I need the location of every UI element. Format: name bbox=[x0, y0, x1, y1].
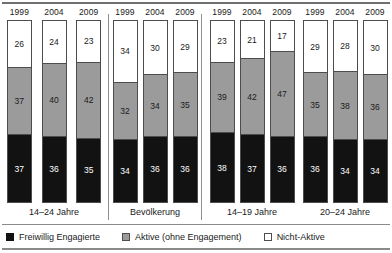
year-label: 2009 bbox=[71, 6, 106, 18]
stacked-bar: 17 47 36 bbox=[270, 20, 295, 203]
segment-freiwillig-engagierte: 36 bbox=[43, 137, 66, 202]
stacked-bar: 30 34 36 bbox=[143, 20, 168, 203]
segment-aktive: 38 bbox=[334, 72, 357, 141]
chart-group-14-19-jahre: 1999 2004 2009 23 39 38 21 42 37 bbox=[207, 0, 297, 222]
year-label: 1999 bbox=[207, 6, 237, 18]
chart-group-bevoelkerung: 1999 2004 2009 34 32 34 30 34 36 bbox=[110, 0, 200, 222]
group-separator-1 bbox=[108, 14, 109, 220]
year-label: 1999 bbox=[300, 6, 330, 18]
legend-item-freiwillig-engagierte: Freiwillig Engagierte bbox=[6, 231, 100, 243]
segment-aktive: 39 bbox=[211, 63, 234, 134]
legend-swatch-icon bbox=[264, 233, 272, 241]
segment-freiwillig-engagierte: 36 bbox=[304, 137, 327, 202]
segment-freiwillig-engagierte: 36 bbox=[174, 137, 197, 202]
stacked-bar: 23 39 38 bbox=[210, 20, 235, 203]
segment-freiwillig-engagierte: 34 bbox=[364, 140, 387, 202]
segment-nicht-aktive: 29 bbox=[174, 21, 197, 73]
segment-aktive: 32 bbox=[114, 83, 137, 141]
bar-slot: 23 42 35 bbox=[71, 20, 106, 203]
segment-nicht-aktive: 34 bbox=[114, 21, 137, 83]
year-label: 1999 bbox=[110, 6, 140, 18]
segment-nicht-aktive: 23 bbox=[77, 21, 100, 63]
legend-label: Nicht-Aktive bbox=[277, 231, 325, 243]
segment-nicht-aktive: 28 bbox=[334, 21, 357, 72]
group-separator-2 bbox=[201, 14, 202, 220]
segment-freiwillig-engagierte: 35 bbox=[77, 139, 100, 202]
bars-row: 26 37 37 24 40 36 23 42 35 bbox=[2, 20, 106, 203]
legend-label: Freiwillig Engagierte bbox=[19, 231, 100, 243]
segment-freiwillig-engagierte: 37 bbox=[8, 135, 31, 202]
segment-aktive: 34 bbox=[144, 75, 167, 137]
stacked-bar: 24 40 36 bbox=[42, 20, 67, 203]
bars-row: 29 35 36 28 38 34 30 36 34 bbox=[300, 20, 390, 203]
segment-aktive: 37 bbox=[8, 68, 31, 135]
bar-slot: 29 35 36 bbox=[170, 20, 200, 203]
year-axis-labels: 1999 2004 2009 bbox=[2, 6, 106, 18]
year-label: 2009 bbox=[170, 6, 200, 18]
bar-slot: 23 39 38 bbox=[207, 20, 237, 203]
segment-nicht-aktive: 21 bbox=[241, 21, 264, 59]
year-axis-labels: 1999 2004 2009 bbox=[300, 6, 390, 18]
legend-label: Aktive (ohne Engagement) bbox=[135, 231, 242, 243]
segment-aktive: 42 bbox=[77, 63, 100, 139]
bars-row: 34 32 34 30 34 36 29 35 36 bbox=[110, 20, 200, 203]
segment-freiwillig-engagierte: 37 bbox=[241, 135, 264, 202]
year-label: 2004 bbox=[330, 6, 360, 18]
year-axis-labels: 1999 2004 2009 bbox=[110, 6, 200, 18]
chart-legend: Freiwillig Engagierte Aktive (ohne Engag… bbox=[6, 230, 347, 244]
legend-top-rule bbox=[2, 224, 390, 225]
segment-aktive: 35 bbox=[304, 73, 327, 136]
segment-freiwillig-engagierte: 36 bbox=[144, 137, 167, 202]
bar-slot: 29 35 36 bbox=[300, 20, 330, 203]
bars-row: 23 39 38 21 42 37 17 47 36 bbox=[207, 20, 297, 203]
stacked-bar-chart: 1999 2004 2009 26 37 37 24 40 36 bbox=[0, 0, 392, 253]
year-axis-labels: 1999 2004 2009 bbox=[207, 6, 297, 18]
stacked-bar: 29 35 36 bbox=[173, 20, 198, 203]
segment-freiwillig-engagierte: 34 bbox=[114, 140, 137, 202]
year-label: 2009 bbox=[267, 6, 297, 18]
bar-slot: 34 32 34 bbox=[110, 20, 140, 203]
bottom-rule bbox=[2, 248, 390, 250]
segment-nicht-aktive: 30 bbox=[364, 21, 387, 75]
stacked-bar: 21 42 37 bbox=[240, 20, 265, 203]
segment-nicht-aktive: 29 bbox=[304, 21, 327, 73]
segment-aktive: 42 bbox=[241, 59, 264, 135]
legend-item-aktive: Aktive (ohne Engagement) bbox=[122, 231, 242, 243]
year-label: 2009 bbox=[360, 6, 390, 18]
segment-nicht-aktive: 24 bbox=[43, 21, 66, 64]
group-label: 14–19 Jahre bbox=[207, 205, 297, 219]
segment-nicht-aktive: 23 bbox=[211, 21, 234, 63]
segment-aktive: 35 bbox=[174, 73, 197, 136]
bar-slot: 24 40 36 bbox=[37, 20, 72, 203]
stacked-bar: 28 38 34 bbox=[333, 20, 358, 203]
bar-slot: 17 47 36 bbox=[267, 20, 297, 203]
chart-group-20-24-jahre: 1999 2004 2009 29 35 36 28 38 34 bbox=[300, 0, 390, 222]
year-label: 2004 bbox=[237, 6, 267, 18]
stacked-bar: 23 42 35 bbox=[76, 20, 101, 203]
legend-item-nicht-aktive: Nicht-Aktive bbox=[264, 231, 325, 243]
chart-group-14-24-jahre: 1999 2004 2009 26 37 37 24 40 36 bbox=[2, 0, 106, 222]
legend-swatch-icon bbox=[122, 233, 130, 241]
stacked-bar: 30 36 34 bbox=[363, 20, 388, 203]
segment-aktive: 40 bbox=[43, 64, 66, 136]
segment-freiwillig-engagierte: 36 bbox=[271, 137, 294, 202]
year-label: 2004 bbox=[140, 6, 170, 18]
segment-nicht-aktive: 17 bbox=[271, 21, 294, 52]
segment-aktive: 47 bbox=[271, 52, 294, 137]
stacked-bar: 34 32 34 bbox=[113, 20, 138, 203]
bar-slot: 21 42 37 bbox=[237, 20, 267, 203]
year-label: 1999 bbox=[2, 6, 37, 18]
year-label: 2004 bbox=[37, 6, 72, 18]
segment-freiwillig-engagierte: 38 bbox=[211, 133, 234, 202]
bar-slot: 30 36 34 bbox=[360, 20, 390, 203]
bar-slot: 30 34 36 bbox=[140, 20, 170, 203]
bar-slot: 28 38 34 bbox=[330, 20, 360, 203]
segment-aktive: 36 bbox=[364, 75, 387, 140]
group-label: 14–24 Jahre bbox=[2, 205, 106, 219]
segment-nicht-aktive: 26 bbox=[8, 21, 31, 68]
segment-freiwillig-engagierte: 34 bbox=[334, 140, 357, 202]
bar-slot: 26 37 37 bbox=[2, 20, 37, 203]
group-label: Bevölkerung bbox=[110, 205, 200, 219]
group-label: 20–24 Jahre bbox=[300, 205, 390, 219]
stacked-bar: 29 35 36 bbox=[303, 20, 328, 203]
